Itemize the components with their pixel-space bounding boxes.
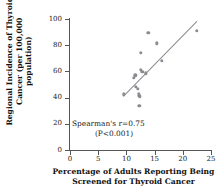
- y-tick-mark: [65, 98, 69, 99]
- x-tick-label: 5: [87, 156, 109, 163]
- annotation-line-2: (P<0.001): [72, 129, 156, 139]
- x-tick-label: 25: [200, 156, 222, 163]
- y-axis-title: Regional Incidence of Thyroid Cancer (pe…: [5, 0, 34, 127]
- annotation-line-1: Spearman's r=0.75: [72, 119, 145, 128]
- y-tick-label: 100: [40, 16, 62, 23]
- y-tick-label: 20: [40, 120, 62, 127]
- y-tick-label: 60: [40, 68, 62, 75]
- y-tick-mark: [65, 45, 69, 46]
- y-tick-mark: [65, 124, 69, 125]
- y-axis-line: [69, 18, 70, 151]
- x-tick-label: 0: [59, 156, 81, 163]
- y-tick-mark: [65, 150, 69, 151]
- y-tick-mark: [65, 19, 69, 20]
- x-tick-label: 10: [115, 156, 137, 163]
- x-tick-label: 15: [144, 156, 166, 163]
- x-tick-label: 20: [172, 156, 194, 163]
- y-tick-label: 40: [40, 94, 62, 101]
- x-axis-title: Percentage of Adults Reporting Being Scr…: [46, 167, 221, 186]
- x-axis-line: [69, 150, 212, 151]
- correlation-annotation: Spearman's r=0.75 (P<0.001): [72, 119, 168, 138]
- y-tick-mark: [65, 71, 69, 72]
- y-tick-label: 80: [40, 42, 62, 49]
- thyroid-screening-scatter-figure: 020406080100 0510152025 Regional Inciden…: [0, 0, 223, 194]
- y-tick-label: 0: [40, 147, 62, 154]
